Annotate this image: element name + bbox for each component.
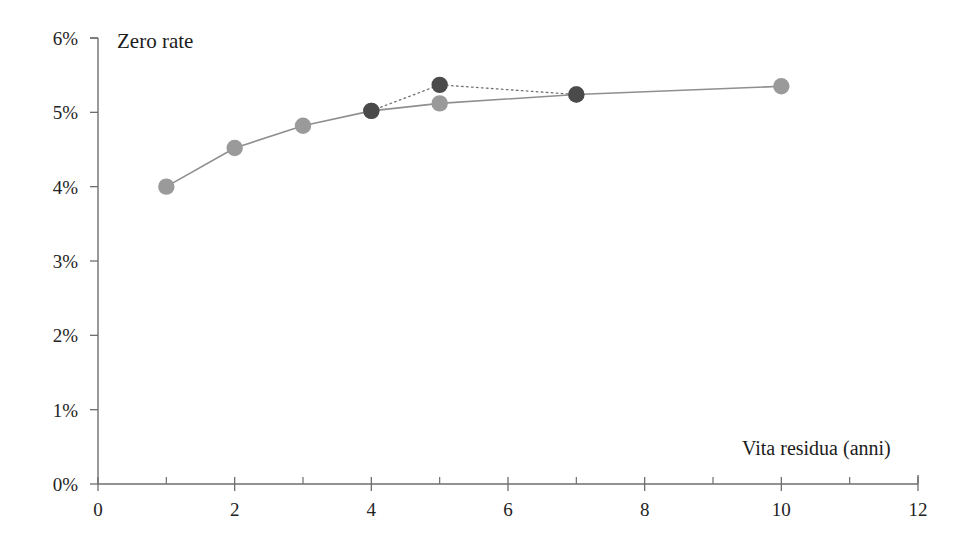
x-axis-title: Vita residua (anni) <box>742 437 891 460</box>
data-point-marker <box>295 118 311 134</box>
x-axis-tick-label: 0 <box>93 499 103 520</box>
data-point-marker <box>431 77 447 93</box>
x-axis-tick-label: 4 <box>367 499 377 520</box>
chart-container: 0%1%2%3%4%5%6% 024681012 Zero rate Vita … <box>0 0 968 546</box>
data-point-marker <box>773 78 789 94</box>
x-axis-tick-label: 10 <box>772 499 791 520</box>
data-point-marker <box>568 86 584 102</box>
x-axis-tick-label: 8 <box>640 499 650 520</box>
y-axis-tick-label: 4% <box>53 177 79 198</box>
plot-title: Zero rate <box>117 29 193 53</box>
x-axis-tick-label: 12 <box>909 499 928 520</box>
data-point-marker <box>431 95 447 111</box>
x-axis-tick-label: 6 <box>503 499 513 520</box>
y-axis-tick-label: 3% <box>53 251 79 272</box>
y-axis-tick-label: 5% <box>53 102 79 123</box>
series-line-zero-rate-smooth <box>166 86 781 186</box>
y-axis-tick-group: 0%1%2%3%4%5%6% <box>53 28 98 495</box>
zero-rate-line-chart: 0%1%2%3%4%5%6% 024681012 Zero rate Vita … <box>0 0 968 546</box>
data-point-marker <box>363 103 379 119</box>
x-axis-tick-label: 2 <box>230 499 240 520</box>
data-point-marker <box>226 140 242 156</box>
data-series-group <box>158 77 789 195</box>
y-axis-tick-label: 1% <box>53 400 79 421</box>
y-axis-tick-label: 6% <box>53 28 79 49</box>
axis-lines <box>90 38 918 484</box>
y-axis-tick-label: 0% <box>53 474 79 495</box>
y-axis-tick-label: 2% <box>53 325 79 346</box>
data-point-marker <box>158 178 174 194</box>
